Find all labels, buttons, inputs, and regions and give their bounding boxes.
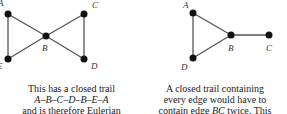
left-vertex-label-C: C: [92, 0, 99, 10]
right-vertex-A: [190, 10, 197, 17]
left-vertex-label-E: E: [0, 61, 3, 71]
left-vertex-label-B: B: [42, 43, 48, 53]
left-edge-AB: [8, 14, 46, 36]
right-edge-DB: [193, 35, 231, 58]
right-graph-caption: A closed trail containing every edge wou…: [143, 83, 287, 114]
left-vertex-A: [5, 11, 12, 18]
right-vertex-label-A: A: [182, 0, 189, 10]
left-edge-BD: [46, 36, 84, 59]
left-vertex-label-A: A: [0, 0, 4, 8]
right-vertex-label-B: B: [228, 43, 234, 53]
right-caption-line-2: every edge would have to: [143, 94, 287, 105]
left-graph-caption: This has a closed trail A–B–C–D–B–E–A an…: [0, 83, 143, 114]
left-vertex-E: [5, 56, 12, 63]
left-vertex-label-D: D: [90, 61, 98, 71]
left-caption-line-3: and is therefore Eulerian: [0, 105, 143, 114]
left-vertex-D: [81, 56, 88, 63]
left-vertex-B: [43, 33, 50, 40]
right-edge-AB: [193, 13, 231, 35]
right-caption-edge-label: BC: [212, 105, 225, 114]
left-vertex-C: [81, 11, 88, 18]
left-edge-EB: [8, 36, 46, 59]
left-caption-trail: A–B–C–D–B–E–A: [0, 94, 143, 105]
right-caption-text-end: twice. This: [225, 105, 272, 114]
right-caption-line-1: A closed trail containing: [143, 83, 287, 94]
right-caption-line-3: contain edge BC twice. This: [143, 105, 287, 114]
left-edge-BC: [46, 14, 84, 36]
right-graph-vertices: ABCD: [180, 0, 273, 72]
right-vertex-C: [266, 32, 273, 39]
right-vertex-B: [228, 32, 235, 39]
right-vertex-label-D: D: [180, 62, 188, 72]
right-caption-text: contain edge: [159, 105, 212, 114]
right-vertex-label-C: C: [266, 43, 273, 53]
right-vertex-D: [190, 55, 197, 62]
left-caption-line-1: This has a closed trail: [0, 83, 143, 94]
